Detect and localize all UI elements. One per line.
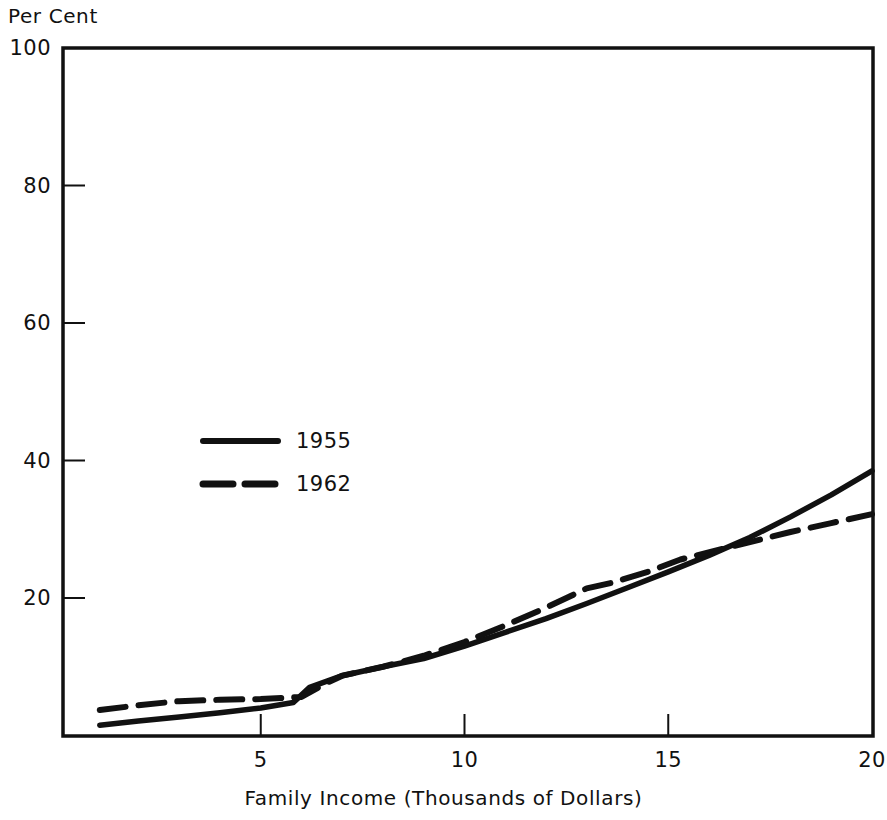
- y-tick-label: 80: [0, 174, 51, 198]
- legend-label-1962: 1962: [296, 472, 351, 496]
- data-line-1955: [100, 471, 872, 725]
- data-line-1962: [100, 514, 872, 710]
- data-series-group: [100, 471, 872, 725]
- legend-label-1955: 1955: [296, 429, 351, 453]
- x-tick-marks: [261, 714, 669, 736]
- chart-figure: Per Cent Family Income (Thousands of Dol…: [0, 0, 887, 820]
- x-tick-label: 20: [858, 748, 886, 772]
- x-tick-label: 15: [654, 748, 682, 772]
- axis-frame: [63, 48, 873, 736]
- y-tick-label: 20: [0, 586, 51, 610]
- y-tick-label: 40: [0, 449, 51, 473]
- x-tick-label: 10: [451, 748, 479, 772]
- x-tick-label: 5: [254, 748, 268, 772]
- legend-swatches: [203, 441, 278, 484]
- y-tick-label: 60: [0, 311, 51, 335]
- y-tick-label: 100: [0, 36, 51, 60]
- y-tick-marks: [63, 48, 85, 598]
- plot-area: [0, 0, 887, 820]
- plot-frame: [63, 48, 873, 736]
